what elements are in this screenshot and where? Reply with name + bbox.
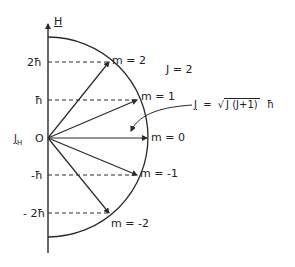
- j-value-label: J = 2: [166, 64, 192, 75]
- vector-m-minus-1: [48, 138, 137, 175]
- vector-label-m-0: m = 0: [151, 132, 185, 143]
- formula-suffix: ħ: [267, 99, 274, 110]
- formula-pointer-arrow: [131, 105, 192, 131]
- vector-label-m-minus-1: m = -1: [140, 168, 178, 179]
- tick-label-minus-1: -ħ: [31, 170, 43, 181]
- formula-equals: =: [203, 99, 211, 110]
- vector-label-m-1: m = 1: [141, 91, 175, 102]
- horizontal-axis-label: JH: [14, 134, 22, 147]
- tick-label-minus-2: - 2ħ: [23, 208, 45, 219]
- formula-lhs: J: [194, 99, 197, 110]
- vector-label-m-2: m = 2: [112, 55, 146, 66]
- horizontal-axis-label-subscript: H: [17, 139, 22, 147]
- tick-label-1: ħ: [35, 95, 43, 106]
- vector-label-m-minus-2: m = -2: [111, 218, 149, 229]
- magnitude-formula: J = √J (J+1) ħ: [194, 100, 274, 110]
- formula-sqrt-content: J (J+1): [224, 98, 260, 110]
- origin-label: O: [35, 133, 44, 144]
- semicircle-arc: [48, 37, 148, 237]
- vertical-axis-label: H: [54, 16, 62, 27]
- vector-m-1: [48, 100, 137, 138]
- tick-label-2: 2ħ: [27, 57, 42, 68]
